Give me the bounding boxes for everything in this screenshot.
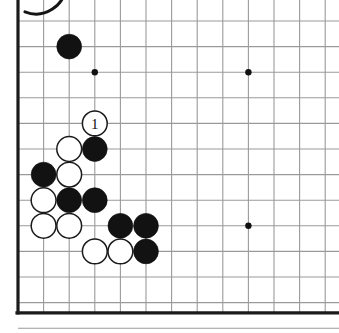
go-diagram-page: 1 <box>0 0 339 333</box>
stone-white <box>82 239 107 264</box>
stone-white <box>108 239 133 264</box>
black-stone <box>57 188 82 213</box>
stone-black <box>57 34 82 59</box>
go-board: 1 <box>0 0 339 333</box>
black-stone <box>134 239 159 264</box>
white-stone <box>57 213 82 238</box>
stone-white <box>31 188 56 213</box>
cut-off-circle-arc-group <box>25 0 66 14</box>
black-stone <box>31 162 56 187</box>
stone-white <box>31 213 56 238</box>
white-stone <box>31 213 56 238</box>
star-point-upper-right <box>245 69 251 75</box>
black-stone <box>82 137 107 162</box>
white-stone <box>108 239 133 264</box>
stone-white <box>57 137 82 162</box>
stone-white: 1 <box>82 111 107 136</box>
black-stone <box>134 213 159 238</box>
star-point-upper-left <box>92 69 98 75</box>
stone-black <box>31 162 56 187</box>
white-stone <box>31 188 56 213</box>
white-stone <box>57 137 82 162</box>
stone-black <box>57 188 82 213</box>
stone-black <box>108 213 133 238</box>
white-stone <box>57 162 82 187</box>
black-stone <box>57 34 82 59</box>
star-point-lower-right <box>245 223 251 229</box>
white-stone <box>82 239 107 264</box>
black-stone <box>108 213 133 238</box>
cut-off-circle-arc <box>25 0 66 14</box>
stone-black <box>134 213 159 238</box>
stone-white <box>57 213 82 238</box>
stone-black <box>82 188 107 213</box>
stone-move-number: 1 <box>91 116 99 132</box>
stone-white <box>57 162 82 187</box>
stone-black <box>82 137 107 162</box>
stone-black <box>134 239 159 264</box>
black-stone <box>82 188 107 213</box>
